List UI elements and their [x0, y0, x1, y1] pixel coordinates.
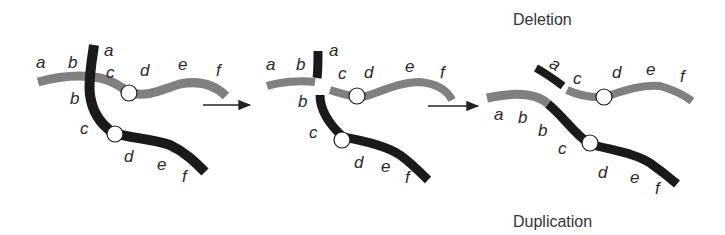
- gene-label: d: [140, 61, 150, 80]
- gene-label: c: [338, 64, 347, 83]
- gray-chromatid-right: [330, 82, 452, 100]
- gene-label: b: [70, 89, 79, 108]
- deletion-gray-segment: [567, 86, 692, 101]
- gene-label: a: [266, 55, 275, 74]
- gene-label: f: [680, 67, 687, 86]
- centromere-gray: [349, 88, 365, 104]
- gene-label: f: [440, 63, 447, 82]
- gene-label: e: [178, 55, 187, 74]
- centromere-deletion: [596, 89, 612, 105]
- centromere-black: [334, 132, 350, 148]
- gene-label: d: [612, 63, 622, 82]
- gene-label: e: [381, 157, 390, 176]
- gene-label: e: [646, 60, 655, 79]
- centromere-duplication: [582, 135, 598, 151]
- gene-label: d: [364, 63, 374, 82]
- panel-chromatid-break: a b c d e f a b c d e f: [266, 41, 452, 187]
- duplication-black-segment: [548, 104, 677, 184]
- gene-label: b: [68, 53, 77, 72]
- gene-label: d: [598, 163, 608, 182]
- duplication-gray-segment: [487, 94, 548, 104]
- gene-label: d: [354, 153, 364, 172]
- gene-label: e: [157, 155, 166, 174]
- gene-label: f: [655, 179, 662, 198]
- centromere-black: [107, 126, 123, 142]
- black-chromatid-top: [317, 51, 318, 78]
- gene-label: c: [309, 123, 318, 142]
- gene-label: f: [216, 61, 223, 80]
- gene-label: f: [405, 168, 412, 187]
- gene-label: b: [538, 121, 547, 140]
- unequal-crossing-over-diagram: a b c d e f a b c d e f a b c d e f a b …: [0, 0, 725, 235]
- gene-label: c: [558, 139, 567, 158]
- gene-label: e: [630, 168, 639, 187]
- gene-label: b: [298, 92, 307, 111]
- gene-label: a: [104, 41, 113, 60]
- panel-results: Deletion Duplication a c d e f a b b c d…: [487, 11, 692, 230]
- centromere-gray: [121, 85, 137, 101]
- gene-label: b: [518, 108, 527, 127]
- gene-label: b: [296, 55, 305, 74]
- deletion-title: Deletion: [513, 11, 572, 28]
- gene-label: a: [36, 53, 45, 72]
- duplication-title: Duplication: [513, 213, 592, 230]
- gene-label: f: [182, 167, 189, 186]
- gray-chromatid-left: [267, 81, 315, 86]
- gene-label: c: [573, 69, 582, 88]
- panel-before-crossover: a b c d e f a b c d e f: [36, 41, 226, 186]
- gene-label: a: [494, 105, 503, 124]
- gene-label: d: [124, 147, 134, 166]
- gene-label: a: [329, 41, 338, 60]
- gene-label: c: [106, 63, 115, 82]
- gene-label: c: [80, 119, 89, 138]
- gene-label: e: [405, 57, 414, 76]
